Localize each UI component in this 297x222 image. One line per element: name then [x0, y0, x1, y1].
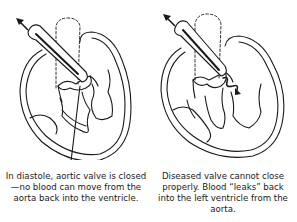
- arrow-up-left-icon: [163, 14, 175, 26]
- arrow-up-left-icon: [16, 18, 28, 30]
- heart-diagram-diseased: [149, 0, 297, 160]
- heart-diagram-normal: [0, 0, 148, 160]
- caption-diseased: Diseased valve cannot close properly. Bl…: [153, 171, 293, 215]
- panel-diseased-valve: Diseased valve cannot close properly. Bl…: [149, 0, 297, 222]
- caption-normal: In diastole, aortic valve is closed—no b…: [2, 171, 150, 204]
- panel-normal-valve: In diastole, aortic valve is closed—no b…: [0, 0, 148, 222]
